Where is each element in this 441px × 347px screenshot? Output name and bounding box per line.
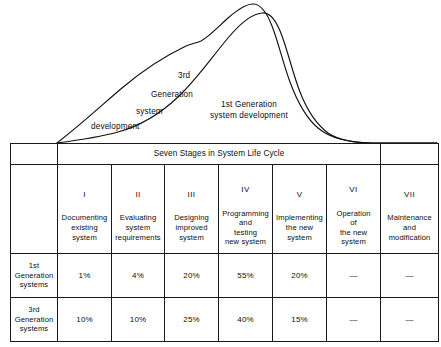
third-gen-label-line3: system [136,107,163,117]
cell-3rd-gen-stage-2: 10% [112,298,165,342]
stage-cell-7: VII Maintenance and modification [381,165,439,254]
row-label-2-line2: Generation [12,315,56,325]
stage-desc-3-line3: system [166,233,217,243]
cell-1st-gen-stage-7: — [381,254,439,298]
stage-desc-3-line1: Designing [166,213,217,223]
cell-1st-gen-stage-1: 1% [58,254,112,298]
stage-desc-6-line4: system [328,237,379,247]
stage-desc-5-line3: system [274,233,325,243]
third-gen-label-line4: development [91,122,140,132]
row-label-1-line2: Generation [12,271,56,281]
stub-spacer-banner [11,144,58,165]
stage-desc-6-line3: the new [328,228,379,238]
stage-numeral-2: II [113,190,163,199]
stage-desc-5-line1: Implementing [274,213,325,223]
stage-desc-4-line3: testing [220,228,271,238]
stub-spacer-stages [11,165,58,254]
stage-numeral-7: VII [382,190,437,199]
stage-cell-5: V Implementing the new system [273,165,327,254]
curve-area: 3rd Generation system development 1st Ge… [0,0,441,150]
stage-numeral-6: VI [328,185,379,194]
table-row: 3rd Generation systems 10% 10% 25% 40% 1… [11,298,439,342]
third-gen-label-line1: 3rd [178,71,190,81]
stage-desc-3-line2: improved [166,223,217,233]
cell-1st-gen-stage-6: — [327,254,381,298]
cell-3rd-gen-stage-3: 25% [165,298,219,342]
cell-3rd-gen-stage-6: — [327,298,381,342]
stage-cell-3: III Designing improved system [165,165,219,254]
row-label-2-line3: systems [12,324,56,334]
third-gen-label-line2: Generation [151,90,193,100]
lifecycle-table: Seven Stages in System Life Cycle I Docu… [10,143,439,342]
first-gen-label-line1: 1st Generation [205,100,293,110]
cell-1st-gen-stage-3: 20% [165,254,219,298]
stage-desc-4-line1: Programming [220,209,271,219]
lifecycle-table-wrap: Seven Stages in System Life Cycle I Docu… [10,143,438,341]
first-gen-label-line2: system development [199,111,299,121]
stage-desc-4-line2: and [220,218,271,228]
cell-3rd-gen-stage-1: 10% [58,298,112,342]
banner-title: Seven Stages in System Life Cycle [58,144,381,165]
stage-desc-2-line1: Evaluating [113,213,163,223]
table-row-stages: I Documenting existing system II Evaluat… [11,165,439,254]
row-label-2-line1: 3rd [12,305,56,315]
row-label-1-line3: systems [12,280,56,290]
cell-1st-gen-stage-4: 55% [219,254,273,298]
stage-numeral-4: IV [220,185,271,194]
stage-desc-5-line2: the new [274,223,325,233]
stage-desc-2-line3: requirements [113,233,163,243]
stage-desc-7-line2: and [382,223,437,233]
stage-desc-6-line2: of [328,218,379,228]
stage-desc-6-line1: Operation [328,209,379,219]
banner-blank-cell [381,144,439,165]
cell-1st-gen-stage-5: 20% [273,254,327,298]
stage-numeral-5: V [274,190,325,199]
row-label-1st-generation: 1st Generation systems [11,254,58,298]
stage-cell-4: IV Programming and testing new system [219,165,273,254]
table-row-banner: Seven Stages in System Life Cycle [11,144,439,165]
stage-desc-2-line2: system [113,223,163,233]
stage-desc-1-line3: system [59,233,110,243]
stage-desc-1-line2: existing [59,223,110,233]
stage-desc-7-line3: modification [382,233,437,243]
stage-cell-1: I Documenting existing system [58,165,112,254]
stage-numeral-1: I [59,190,110,199]
table-row: 1st Generation systems 1% 4% 20% 55% 20%… [11,254,439,298]
cell-3rd-gen-stage-7: — [381,298,439,342]
stage-desc-1-line1: Documenting [59,213,110,223]
stage-cell-2: II Evaluating system requirements [112,165,165,254]
row-label-1-line1: 1st [12,261,56,271]
cell-1st-gen-stage-2: 4% [112,254,165,298]
stage-desc-7-line1: Maintenance [382,213,437,223]
stage-numeral-3: III [166,190,217,199]
cell-3rd-gen-stage-5: 15% [273,298,327,342]
stage-cell-6: VI Operation of the new system [327,165,381,254]
cell-3rd-gen-stage-4: 40% [219,298,273,342]
row-label-3rd-generation: 3rd Generation systems [11,298,58,342]
stage-desc-4-line4: new system [220,237,271,247]
curve-svg [0,0,441,150]
lifecycle-figure: 3rd Generation system development 1st Ge… [0,0,441,347]
